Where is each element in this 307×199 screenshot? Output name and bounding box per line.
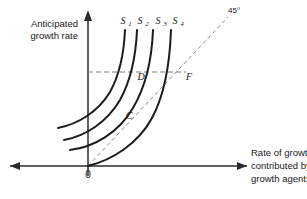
curve-label-s3: S 3 [156,15,168,28]
point-f-label: F [185,71,193,82]
curve-label-s1-subscript: 1 [128,20,132,28]
curve-label-s4-subscript: 4 [180,20,184,28]
y-axis-title: Anticipated growth rate [30,18,78,41]
diagram-canvas: S 1 S 2 S 3 S 4 45° D C F 0 Anticipated … [0,0,307,199]
curve-label-s2: S 2 [138,15,150,28]
curve-label-s2-subscript: 2 [145,20,149,28]
y-axis-up-arrowhead [84,10,92,21]
curve-label-s3-subscript: 3 [162,20,167,28]
x-axis-right-arrowhead [237,162,247,170]
x-axis-title-line-1: Rate of growth [251,147,307,158]
curve-label-s4-base: S [173,15,178,26]
curve-label-s4: S 4 [173,15,185,28]
y-axis-title-line-2: growth rate [30,30,78,41]
y-axis-title-line-1: Anticipated [31,18,78,29]
x-axis-title-line-2: contributed by [251,160,307,171]
45-degree-ray [88,17,228,166]
y-axis [84,10,92,176]
curve-label-s3-base: S [156,15,161,26]
economics-growth-diagram: S 1 S 2 S 3 S 4 45° D C F 0 Anticipated … [0,0,307,199]
forty-five-degree-label: 45° [228,6,240,15]
curve-label-s1: S 1 [121,15,132,28]
point-c-label: C [126,110,133,121]
x-axis-left-arrowhead [10,162,20,170]
curve-s1 [58,30,125,128]
x-axis [10,162,247,170]
point-d-label: D [136,71,145,82]
origin-label: 0 [85,169,91,180]
x-axis-title: Rate of growth contributed by growth age… [251,147,307,184]
x-axis-title-line-3: growth agents [251,173,307,184]
curve-s4 [88,30,171,166]
curve-label-s1-base: S [121,15,126,26]
curve-label-s2-base: S [138,15,143,26]
